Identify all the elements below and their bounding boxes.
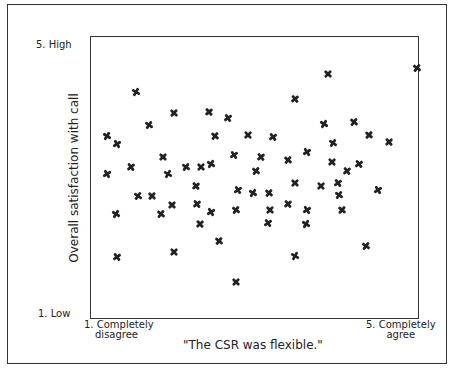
data-point-cross-icon [210, 131, 220, 141]
data-point-cross-icon [196, 162, 206, 172]
y-tick-high: 5. High [36, 39, 72, 50]
data-point-cross-icon [223, 113, 233, 123]
data-point-cross-icon [206, 159, 216, 169]
data-point-cross-icon [156, 209, 166, 219]
x-axis-title: "The CSR was flexible." [183, 338, 323, 352]
data-point-cross-icon [163, 169, 173, 179]
data-point-cross-icon [337, 205, 347, 215]
data-point-cross-icon [265, 205, 275, 215]
data-point-cross-icon [229, 150, 239, 160]
x-tick-agree-line2: agree [366, 330, 436, 340]
data-point-cross-icon [206, 207, 216, 217]
data-point-cross-icon [126, 162, 136, 172]
data-point-cross-icon [214, 236, 224, 246]
data-point-cross-icon [169, 108, 179, 118]
data-point-cross-icon [102, 131, 112, 141]
data-point-cross-icon [251, 166, 261, 176]
data-point-cross-icon [231, 277, 241, 287]
data-point-cross-icon [191, 181, 201, 191]
data-point-cross-icon [283, 199, 293, 209]
data-point-cross-icon [102, 169, 112, 179]
x-tick-disagree-line2: disagree [84, 330, 154, 340]
data-point-cross-icon [169, 247, 179, 257]
data-point-cross-icon [112, 252, 122, 262]
data-point-cross-icon [323, 69, 333, 79]
data-point-cross-icon [290, 94, 300, 104]
data-point-cross-icon [301, 219, 311, 229]
data-point-cross-icon [192, 199, 202, 209]
y-tick-low: 1. Low [38, 308, 70, 319]
data-point-cross-icon [283, 155, 293, 165]
data-point-cross-icon [334, 190, 344, 200]
data-point-cross-icon [349, 117, 359, 127]
data-point-cross-icon [290, 178, 300, 188]
data-point-cross-icon [243, 130, 253, 140]
data-point-cross-icon [319, 119, 329, 129]
data-point-cross-icon [231, 205, 241, 215]
data-point-cross-icon [233, 185, 243, 195]
data-point-cross-icon [364, 130, 374, 140]
data-point-cross-icon [144, 120, 154, 130]
data-point-cross-icon [167, 200, 177, 210]
data-point-cross-icon [204, 107, 214, 117]
data-point-cross-icon [342, 166, 352, 176]
data-point-cross-icon [181, 162, 191, 172]
data-point-cross-icon [111, 209, 121, 219]
data-point-cross-icon [412, 63, 422, 73]
data-point-cross-icon [333, 178, 343, 188]
data-point-cross-icon [384, 137, 394, 147]
data-point-cross-icon [302, 205, 312, 215]
y-axis-title: Overall satisfaction with call [67, 93, 81, 262]
data-point-cross-icon [263, 218, 273, 228]
data-point-cross-icon [268, 132, 278, 142]
data-point-cross-icon [302, 147, 312, 157]
plot-area [90, 36, 419, 319]
data-point-cross-icon [373, 185, 383, 195]
data-point-cross-icon [147, 191, 157, 201]
data-point-cross-icon [354, 159, 364, 169]
data-point-cross-icon [361, 241, 371, 251]
data-point-cross-icon [195, 219, 205, 229]
data-point-cross-icon [256, 152, 266, 162]
data-point-cross-icon [316, 181, 326, 191]
data-point-cross-icon [264, 188, 274, 198]
x-tick-agree: 5. Completely agree [366, 320, 436, 340]
data-point-cross-icon [290, 251, 300, 261]
x-tick-disagree: 1. Completely disagree [84, 320, 154, 340]
data-point-cross-icon [327, 157, 337, 167]
data-point-cross-icon [248, 188, 258, 198]
data-point-cross-icon [133, 191, 143, 201]
data-point-cross-icon [131, 87, 141, 97]
data-point-cross-icon [112, 139, 122, 149]
data-point-cross-icon [158, 152, 168, 162]
data-point-cross-icon [328, 138, 338, 148]
